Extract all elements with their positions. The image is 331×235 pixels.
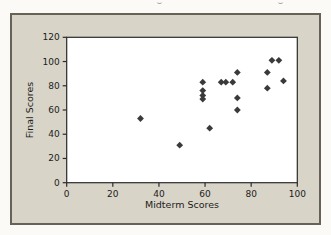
x-tick-label: 60 — [199, 189, 211, 199]
x-tick-label: 100 — [289, 189, 306, 199]
y-tick-label: 100 — [43, 57, 60, 67]
scatter-chart: 020406080100120020406080100Midterm Score… — [0, 0, 331, 235]
x-tick-label: 80 — [245, 189, 257, 199]
y-tick-label: 40 — [48, 129, 60, 139]
y-tick-label: 20 — [48, 153, 60, 163]
x-tick-label: 20 — [107, 189, 119, 199]
x-tick-label: 40 — [153, 189, 165, 199]
plot-area — [67, 37, 298, 182]
page: 020406080100120020406080100Midterm Score… — [0, 0, 331, 235]
y-axis-title: Final Scores — [24, 82, 35, 139]
y-tick-label: 0 — [54, 178, 60, 188]
x-axis-title: Midterm Scores — [145, 199, 219, 210]
y-tick-label: 60 — [48, 105, 60, 115]
y-tick-label: 120 — [43, 32, 60, 42]
y-tick-label: 80 — [48, 81, 60, 91]
x-tick-label: 0 — [64, 189, 70, 199]
